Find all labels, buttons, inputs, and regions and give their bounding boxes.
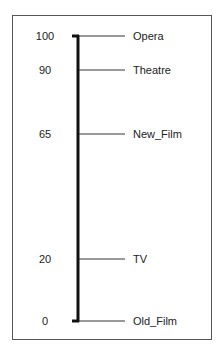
tick-label: Old_Film bbox=[133, 315, 177, 327]
tick-value: 90 bbox=[39, 64, 51, 76]
tick-value: 0 bbox=[42, 315, 48, 327]
scale-diagram: 100Opera90Theatre65New_Film20TV0Old_Film bbox=[0, 0, 223, 357]
tick-label: TV bbox=[133, 253, 148, 265]
tick-value: 20 bbox=[39, 253, 51, 265]
tick-label: New_Film bbox=[133, 128, 182, 140]
tick-value: 100 bbox=[36, 30, 54, 42]
tick-label: Opera bbox=[133, 30, 164, 42]
tick-label: Theatre bbox=[133, 64, 171, 76]
tick-value: 65 bbox=[39, 128, 51, 140]
